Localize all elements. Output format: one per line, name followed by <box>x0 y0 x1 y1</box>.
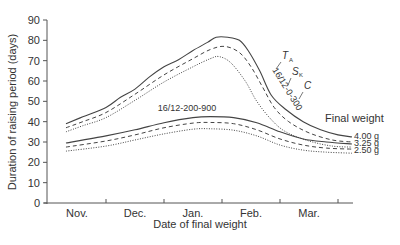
x-tick-label: Dec. <box>124 207 147 219</box>
x-axis-title: Date of final weight <box>153 218 247 230</box>
c-label: C <box>304 80 312 91</box>
y-tick-labels: 0102030405060708090 <box>28 14 47 209</box>
sk-subscript: K <box>299 72 303 78</box>
y-tick-label: 90 <box>28 14 40 26</box>
series-line <box>66 117 352 144</box>
ta-label: T <box>282 50 289 61</box>
y-tick-label: 0 <box>34 197 40 209</box>
x-tick-label: Mar. <box>298 207 319 219</box>
y-tick-label: 50 <box>28 95 40 107</box>
x-tick-label: Nov. <box>66 207 88 219</box>
y-tick-label: 70 <box>28 55 40 67</box>
series-line <box>66 56 352 147</box>
sk-annotation: S K <box>288 66 303 85</box>
y-axis-title: Duration of raising period (days) <box>6 34 18 191</box>
y-tick-label: 60 <box>28 75 40 87</box>
y-tick-label: 40 <box>28 116 40 128</box>
y-tick-label: 20 <box>28 156 40 168</box>
lower-group-label: 16/12-200-900 <box>158 103 217 113</box>
line-chart: 0102030405060708090 Nov.Dec.Jan.Feb.Mar.… <box>0 0 400 245</box>
legend-title: Final weight <box>325 112 384 124</box>
x-tick-labels: Nov.Dec.Jan.Feb.Mar. <box>66 199 338 219</box>
legend-label-25g: 2.50 g <box>354 145 379 155</box>
data-series <box>66 37 352 153</box>
y-tick-label: 30 <box>28 136 40 148</box>
series-line <box>66 46 352 142</box>
c-annotation: C <box>299 80 312 99</box>
sk-label: S <box>292 66 299 77</box>
y-tick-label: 10 <box>28 177 40 189</box>
y-tick-label: 80 <box>28 34 40 46</box>
ta-subscript: A <box>289 57 293 63</box>
